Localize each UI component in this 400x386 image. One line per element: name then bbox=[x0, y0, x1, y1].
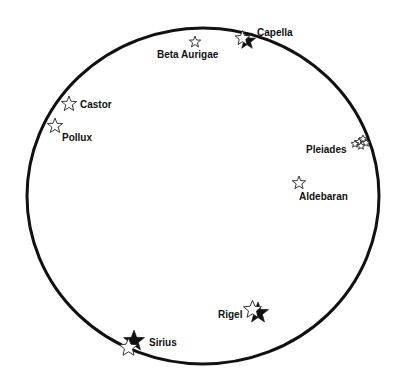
star-icon bbox=[189, 36, 200, 47]
label-rigel: Rigel bbox=[218, 309, 243, 320]
star-pollux bbox=[47, 118, 62, 133]
label-beta-aurigae: Beta Aurigae bbox=[157, 49, 219, 60]
label-pollux: Pollux bbox=[62, 132, 92, 143]
label-castor: Castor bbox=[80, 99, 112, 110]
star-castor bbox=[61, 96, 76, 111]
label-capella: Capella bbox=[257, 27, 293, 38]
star-icon bbox=[47, 118, 62, 133]
labels-layer: Capella Beta Aurigae Castor Pollux Pleia… bbox=[62, 27, 348, 348]
star-beta-aurigae bbox=[189, 36, 200, 47]
star-map: Capella Beta Aurigae Castor Pollux Pleia… bbox=[0, 0, 400, 386]
star-icon bbox=[292, 176, 305, 189]
label-pleiades: Pleiades bbox=[306, 144, 347, 155]
star-sirius bbox=[120, 330, 145, 355]
star-icon bbox=[61, 96, 76, 111]
label-sirius: Sirius bbox=[149, 337, 177, 348]
label-aldebaran: Aldebaran bbox=[299, 191, 348, 202]
star-aldebaran bbox=[292, 176, 305, 189]
star-rigel bbox=[244, 300, 269, 322]
